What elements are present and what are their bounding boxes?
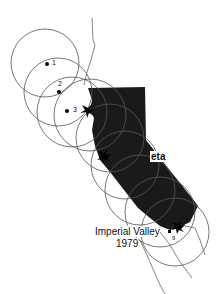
station-label-3: 3 — [73, 106, 77, 113]
station-dot — [45, 62, 49, 66]
station-dot — [65, 109, 69, 113]
california-seismic-map — [0, 0, 222, 294]
station-label-9: 9 — [172, 235, 175, 241]
station-label-1: 1 — [52, 59, 56, 66]
station-dot — [57, 90, 61, 94]
loma-prieta-label: eta — [150, 151, 166, 162]
imperial-valley-year: 1979 — [116, 238, 138, 249]
station-dot — [168, 230, 171, 233]
station-label-2: 2 — [58, 80, 62, 87]
imperial-valley-label: Imperial Valley — [95, 226, 160, 237]
